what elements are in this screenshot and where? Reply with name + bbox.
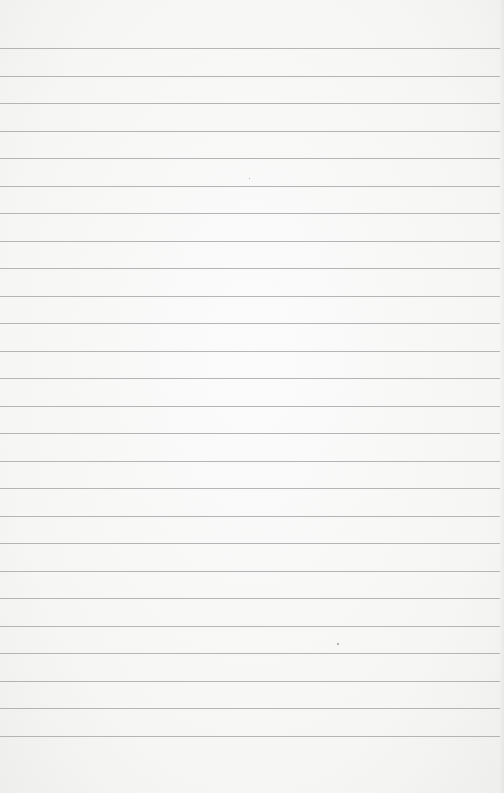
ruled-line [0,433,500,434]
ruled-line [0,461,500,462]
paper-edge-shadow [499,0,504,793]
ruled-line [0,76,500,77]
ruled-line [0,158,500,159]
ruled-line [0,323,500,324]
ruled-line [0,296,500,297]
ruled-line [0,708,500,709]
paper-speck [337,643,339,645]
ruled-line [0,268,500,269]
ruled-line [0,736,500,737]
ruled-line [0,48,500,49]
ruled-line [0,406,500,407]
ruled-line [0,186,500,187]
ruled-line [0,626,500,627]
ruled-line [0,213,500,214]
ruled-line [0,241,500,242]
ruled-line [0,131,500,132]
lined-paper-sheet [0,0,504,793]
ruled-line [0,103,500,104]
ruled-line [0,351,500,352]
ruled-line [0,681,500,682]
ruled-line [0,488,500,489]
ruled-line [0,598,500,599]
ruled-line [0,543,500,544]
paper-speck [249,178,250,179]
ruled-line [0,516,500,517]
ruled-line [0,653,500,654]
ruled-line [0,378,500,379]
ruled-line [0,571,500,572]
